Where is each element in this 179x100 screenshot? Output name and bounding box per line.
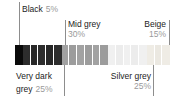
- bar-stripe: [100, 45, 108, 65]
- bar-stripe: [139, 45, 147, 65]
- stacked-bar: [15, 45, 170, 65]
- bar-stripe: [155, 45, 163, 65]
- bar-segment-black[interactable]: [15, 45, 23, 65]
- leader-line-beige: [169, 20, 170, 45]
- bar-stripe: [77, 45, 85, 65]
- leader-line-black: [19, 2, 20, 45]
- bar-stripe: [93, 45, 101, 65]
- bar-segment-very-dark-grey[interactable]: [23, 45, 62, 65]
- callout-silver-grey[interactable]: Silver grey 25%: [95, 72, 151, 91]
- leader-line-very-dark-grey: [64, 65, 65, 96]
- chart-canvas: Black5% Mid grey 30% Beige 15% Very dark…: [0, 0, 179, 100]
- bar-stripe: [54, 45, 62, 65]
- bar-stripe: [85, 45, 93, 65]
- callout-beige[interactable]: Beige 15%: [120, 20, 166, 39]
- bar-stripe: [147, 45, 155, 65]
- bar-stripe: [162, 45, 170, 65]
- bar-stripe: [124, 45, 132, 65]
- callout-very-dark-grey[interactable]: Very dark grey25%: [16, 72, 53, 94]
- leader-line-mid-grey: [65, 20, 66, 45]
- callout-black-name: Black: [22, 4, 43, 14]
- bar-stripe: [23, 45, 31, 65]
- bar-stripe: [108, 45, 116, 65]
- callout-very-dark-grey-line2: grey25%: [16, 82, 53, 95]
- bar-stripe: [31, 45, 39, 65]
- bar-stripe: [69, 45, 77, 65]
- callout-beige-percent: 15%: [120, 30, 166, 40]
- callout-very-dark-grey-name-line2: grey: [16, 84, 33, 94]
- callout-mid-grey[interactable]: Mid grey 30%: [68, 20, 101, 39]
- bar-segment-silver-grey[interactable]: [108, 45, 147, 65]
- bar-segment-mid-grey[interactable]: [62, 45, 109, 65]
- callout-black-percent: 5%: [46, 4, 58, 14]
- callout-black[interactable]: Black5%: [22, 2, 58, 15]
- bar-stripe: [116, 45, 124, 65]
- callout-very-dark-grey-name-line1: Very dark: [16, 72, 53, 82]
- leader-line-silver-grey: [153, 65, 154, 96]
- bar-stripe: [46, 45, 54, 65]
- bar-segment-beige[interactable]: [147, 45, 170, 65]
- callout-very-dark-grey-percent: 25%: [36, 84, 53, 94]
- bar-stripe: [131, 45, 139, 65]
- callout-mid-grey-percent: 30%: [68, 30, 101, 40]
- callout-silver-grey-percent: 25%: [95, 82, 151, 92]
- bar-stripe: [15, 45, 23, 65]
- bar-stripe: [62, 45, 70, 65]
- bar-stripe: [38, 45, 46, 65]
